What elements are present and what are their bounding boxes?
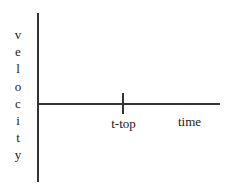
t-top-tick-mark [122, 93, 124, 114]
y-axis-label-velocity: v e l o c i t y [9, 26, 27, 164]
y-axis-label-letter: t [9, 129, 27, 146]
velocity-time-graph: v e l o c i t y t-top time [0, 0, 227, 187]
y-axis-label-letter: y [9, 146, 27, 163]
y-axis-label-letter: l [9, 60, 27, 77]
y-axis-label-letter: o [9, 78, 27, 95]
velocity-axis-line [37, 13, 39, 182]
y-axis-label-letter: e [9, 43, 27, 60]
x-axis-tick-label-t-top: t-top [96, 116, 151, 132]
y-axis-label-letter: c [9, 95, 27, 112]
time-axis-line [37, 103, 220, 105]
x-axis-label-time: time [178, 114, 201, 130]
y-axis-label-letter: v [9, 26, 27, 43]
y-axis-label-letter: i [9, 112, 27, 129]
